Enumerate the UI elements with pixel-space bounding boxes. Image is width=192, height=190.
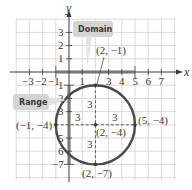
point-left	[54, 123, 58, 127]
point-label-bottom: (2, −7)	[82, 167, 112, 180]
point-label-left: (−1, −4)	[16, 119, 53, 132]
x-tick-label: 4	[119, 75, 125, 87]
svg-text:Range: Range	[19, 98, 48, 107]
point-top	[94, 83, 98, 87]
radius-label-right: 3	[112, 111, 118, 123]
x-axis-label: x	[183, 65, 190, 79]
x-tick-label: −2	[35, 75, 47, 87]
radius-label-left: 3	[75, 111, 81, 123]
y-tick-label: 1	[58, 52, 64, 64]
y-tick-label: −7	[52, 158, 64, 170]
point-label-top: (2, −1)	[96, 44, 126, 57]
point-label-center: (2, −4)	[96, 126, 126, 139]
point-label-right: (5, −4)	[138, 114, 168, 127]
y-axis-label: y	[65, 1, 72, 15]
x-tick-label: 5	[133, 75, 139, 87]
y-tick-label: 2	[58, 39, 64, 51]
circle-graph: x y −3 −2 −1 1 3 4 5 6 7 3 2 1 1 2 3 5 6…	[0, 0, 192, 190]
x-tick-label: 7	[159, 75, 165, 87]
svg-text:Domain: Domain	[78, 25, 113, 34]
y-tick-label: 3	[58, 26, 64, 38]
x-tick-label: 3	[106, 75, 112, 87]
x-tick-label: 1	[80, 75, 86, 87]
radius-label-down: 3	[87, 138, 93, 150]
x-axis-arrow-icon	[176, 70, 183, 75]
radius-label-up: 3	[87, 98, 93, 110]
point-bottom	[94, 163, 98, 167]
x-tick-label: −3	[22, 75, 34, 87]
point-right	[133, 123, 137, 127]
x-tick-label: 6	[146, 75, 152, 87]
y-tick-label: 1	[58, 79, 64, 91]
